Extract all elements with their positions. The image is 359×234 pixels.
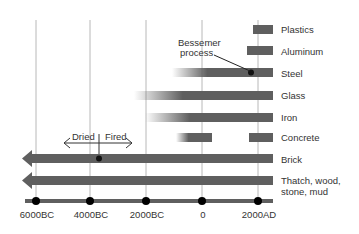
label-aluminum: Aluminum	[281, 46, 323, 57]
fired-marker	[96, 156, 102, 162]
label-concrete: Concrete	[281, 132, 320, 143]
bar-concrete-ancient	[176, 133, 212, 142]
label-glass: Glass	[281, 90, 306, 101]
label-fired: Fired	[105, 131, 127, 142]
bar-iron	[145, 113, 273, 122]
tick-6000bc: 6000BC	[20, 209, 54, 220]
label-thatch-line2: stone, mud	[281, 186, 328, 197]
bar-aluminum	[247, 46, 273, 55]
tick-4000bc: 4000BC	[74, 209, 108, 220]
materials-timeline-chart: Plastics Aluminum Bessemer process Steel…	[0, 0, 359, 234]
bar-glass	[134, 91, 273, 100]
label-brick: Brick	[281, 154, 302, 165]
bar-concrete-modern	[249, 133, 273, 142]
label-iron: Iron	[281, 112, 297, 123]
bar-brick	[22, 150, 273, 167]
bar-steel	[172, 68, 273, 77]
tick-2000ad: 2000AD	[242, 209, 276, 220]
label-steel: Steel	[281, 68, 303, 79]
label-thatch-line1: Thatch, wood,	[281, 175, 341, 186]
label-dried: Dried	[72, 131, 95, 142]
tick-2000bc: 2000BC	[130, 209, 164, 220]
bessemer-label-line2: process	[180, 47, 214, 58]
tick-0: 0	[200, 209, 205, 220]
label-plastics: Plastics	[281, 24, 314, 35]
bar-plastics	[253, 25, 273, 34]
gridlines	[36, 20, 258, 201]
bar-thatch	[22, 172, 273, 189]
